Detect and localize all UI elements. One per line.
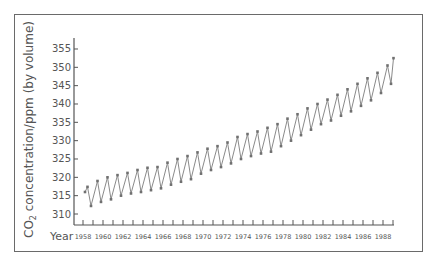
data-point-marker [386, 64, 389, 67]
data-point-marker [300, 134, 303, 137]
y-tick-label: 350 [52, 62, 71, 73]
data-point-marker [350, 110, 353, 113]
data-point-marker [90, 205, 93, 208]
data-point-marker [146, 166, 149, 169]
y-tick-label: 320 [52, 172, 71, 183]
data-point-marker [360, 105, 363, 108]
data-point-marker [376, 72, 379, 75]
data-point-marker [186, 155, 189, 158]
y-tick-label: 315 [52, 190, 71, 201]
data-point-marker [150, 189, 153, 192]
data-point-marker [130, 192, 133, 195]
data-point-marker [392, 57, 395, 60]
data-point-marker [156, 166, 159, 169]
data-point-marker [210, 169, 213, 172]
y-tick-label: 340 [52, 98, 71, 109]
x-tick-label: 1978 [275, 233, 292, 241]
data-point-marker [120, 194, 123, 197]
data-point-marker [326, 98, 329, 101]
y-tick-label: 355 [52, 43, 71, 54]
data-point-marker [106, 176, 109, 179]
data-point-marker [280, 145, 283, 148]
data-point-marker [270, 150, 273, 153]
data-point-marker [136, 169, 139, 172]
y-axis: 310315320325330335340345350355 [52, 38, 78, 225]
data-point-marker [246, 133, 249, 136]
co2-series-line [85, 58, 394, 206]
co2-line-chart: 310315320325330335340345350355 195819601… [0, 0, 434, 267]
y-tick-label: 335 [52, 117, 71, 128]
data-point-marker [166, 161, 169, 164]
x-tick-label: 1962 [115, 233, 132, 241]
x-axis-label: Year [49, 230, 74, 243]
data-point-marker [390, 83, 393, 86]
x-tick-label: 1966 [155, 233, 172, 241]
data-point-marker [140, 191, 143, 194]
data-point-marker [306, 107, 309, 110]
data-point-marker [256, 130, 259, 133]
x-tick-label: 1976 [255, 233, 272, 241]
data-point-marker [190, 178, 193, 181]
x-tick-label: 1986 [355, 233, 372, 241]
y-tick-label: 310 [52, 209, 71, 220]
x-tick-label: 1988 [375, 233, 392, 241]
x-tick-label: 1964 [135, 233, 152, 241]
data-point-marker [380, 92, 383, 95]
data-point-marker [276, 123, 279, 126]
data-point-marker [310, 128, 313, 131]
x-tick-label: 1972 [215, 233, 232, 241]
data-point-marker [176, 158, 179, 161]
data-point-marker [316, 103, 319, 106]
x-tick-label: 1982 [315, 233, 332, 241]
data-point-marker [180, 180, 183, 183]
y-tick-label: 325 [52, 153, 71, 164]
data-point-marker [160, 187, 163, 190]
data-point-marker [170, 183, 173, 186]
data-point-marker [100, 201, 103, 204]
x-tick-label: 1960 [95, 233, 112, 241]
data-point-marker [366, 77, 369, 80]
data-point-marker [330, 119, 333, 122]
data-point-marker [240, 158, 243, 161]
x-tick-label: 1984 [335, 233, 352, 241]
data-point-marker [286, 117, 289, 120]
data-point-marker [86, 186, 89, 189]
data-point-marker [340, 114, 343, 117]
data-point-marker [346, 88, 349, 91]
data-point-marker [116, 174, 119, 177]
data-point-marker [320, 123, 323, 126]
data-point-marker [260, 152, 263, 155]
data-point-marker [200, 172, 203, 175]
data-point-marker [290, 139, 293, 142]
data-point-marker [230, 162, 233, 165]
data-point-marker [196, 151, 199, 154]
data-point-marker [84, 191, 87, 194]
y-tick-label: 330 [52, 135, 71, 146]
x-tick-label: 1980 [295, 233, 312, 241]
data-point-marker [96, 180, 99, 183]
data-point-marker [216, 145, 219, 148]
data-point-marker [126, 172, 129, 175]
data-point-marker [356, 83, 359, 86]
data-point-marker [250, 155, 253, 158]
data-point-marker [236, 136, 239, 139]
data-point-marker [226, 141, 229, 144]
data-point-marker [220, 166, 223, 169]
y-tick-label: 345 [52, 80, 71, 91]
data-point-marker [206, 147, 209, 150]
data-point-marker [110, 198, 113, 201]
data-point-marker [336, 94, 339, 97]
x-tick-label: 1970 [195, 233, 212, 241]
data-point-marker [370, 99, 373, 102]
plot-area [84, 57, 395, 207]
x-tick-label: 1968 [175, 233, 192, 241]
data-point-marker [266, 127, 269, 130]
x-tick-label: 1974 [235, 233, 252, 241]
data-point-marker [296, 113, 299, 116]
x-axis: 1958196019621964196619681970197219741976… [49, 220, 394, 243]
x-tick-label: 1958 [75, 233, 92, 241]
